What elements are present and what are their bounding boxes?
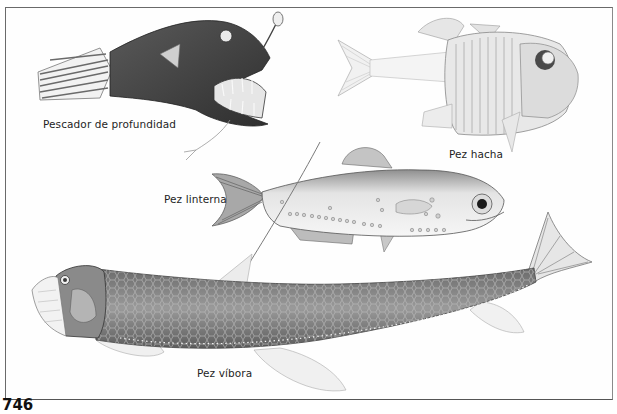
- lanternfish-drawing: [212, 148, 504, 252]
- label-lanternfish: Pez linterna: [164, 193, 227, 205]
- anglerfish-drawing: [38, 12, 283, 160]
- label-viperfish: Pez víbora: [197, 367, 252, 379]
- label-hatchetfish: Pez hacha: [449, 148, 503, 160]
- label-anglerfish: Pescador de profundidad: [43, 118, 176, 130]
- hatchetfish-drawing: [338, 18, 578, 152]
- page-number: 746: [2, 398, 33, 413]
